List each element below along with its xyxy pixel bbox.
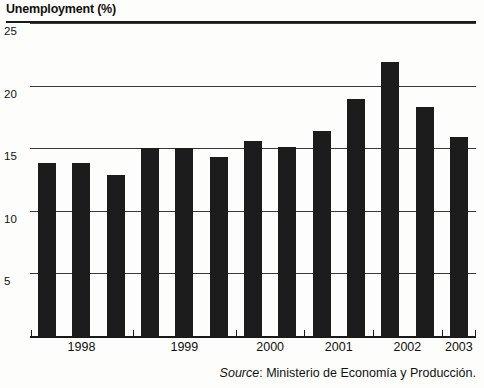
x-tick-2000 <box>236 330 237 337</box>
bar <box>313 131 331 336</box>
bar <box>450 137 468 336</box>
bar <box>141 148 159 336</box>
x-axis-ticks <box>30 330 476 338</box>
bar <box>175 148 193 336</box>
bar <box>244 141 262 336</box>
y-tick-label-20: 20 <box>4 89 30 101</box>
x-axis-label-2003: 2003 <box>445 340 473 354</box>
y-tick-label-15: 15 <box>4 151 30 163</box>
bar <box>347 99 365 336</box>
bar-series <box>30 23 476 336</box>
x-axis-label-1999: 1999 <box>170 340 198 354</box>
x-axis-label-2000: 2000 <box>256 340 284 354</box>
x-tick-1998 <box>31 330 32 337</box>
x-tick-2003 <box>442 330 443 337</box>
source-text: : Ministerio de Economía y Producción. <box>259 366 476 380</box>
bar <box>72 163 90 336</box>
x-tick-2002 <box>373 330 374 337</box>
bar <box>210 157 228 336</box>
bar <box>381 62 399 336</box>
x-tick-2001 <box>304 330 305 337</box>
y-axis-labels: 252015105 <box>4 23 30 336</box>
x-axis-labels: 199819992000200120022003 <box>30 340 476 358</box>
x-axis-label-2002: 2002 <box>393 340 421 354</box>
source-label: Source <box>220 366 260 380</box>
bar <box>38 163 56 336</box>
x-tick-end <box>475 330 476 337</box>
page-title: Unemployment (%) <box>6 2 116 16</box>
bar <box>278 147 296 336</box>
chart-figure: Unemployment (%) 252015105 1998199920002… <box>0 0 484 388</box>
source-note: Source: Ministerio de Economía y Producc… <box>0 366 476 380</box>
bar <box>107 175 125 337</box>
x-axis-label-2001: 2001 <box>325 340 353 354</box>
x-tick-1999 <box>133 330 134 337</box>
x-axis-label-1998: 1998 <box>68 340 96 354</box>
bar <box>416 107 434 336</box>
y-tick-label-25: 25 <box>4 26 30 38</box>
y-tick-label-10: 10 <box>4 214 30 226</box>
y-tick-label-5: 5 <box>4 276 30 288</box>
